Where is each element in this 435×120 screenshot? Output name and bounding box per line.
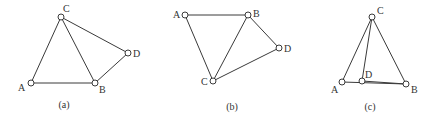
node-label-B: B (411, 84, 418, 95)
figure-c: ABCD(c) (331, 5, 418, 113)
node-C (58, 14, 64, 20)
edge-AC (185, 15, 213, 81)
node-label-D: D (133, 48, 140, 59)
node-label-A: A (173, 9, 181, 20)
node-label-C: C (201, 76, 208, 87)
edge-BC (213, 15, 248, 81)
edge-CD (213, 48, 279, 81)
figure-caption: (a) (58, 99, 69, 111)
node-A (182, 12, 188, 18)
node-B (245, 12, 251, 18)
edge-CB (61, 17, 95, 83)
node-B (92, 80, 98, 86)
edge-CB (372, 17, 406, 84)
node-A (339, 79, 345, 85)
node-label-D: D (365, 69, 372, 80)
node-D (276, 45, 282, 51)
node-label-A: A (18, 82, 26, 93)
edge-AC (31, 17, 61, 83)
node-label-C: C (63, 3, 70, 14)
edge-CD (61, 17, 128, 53)
edge-BD (248, 15, 279, 48)
graph-diagrams: ABCD(a) ABCD(b) ABCD(c) (0, 0, 435, 120)
node-label-C: C (377, 5, 384, 16)
figure-caption: (c) (364, 101, 375, 113)
node-D (125, 50, 131, 56)
node-C (210, 78, 216, 84)
node-label-D: D (284, 43, 291, 54)
figure-a: ABCD(a) (18, 3, 140, 111)
node-label-B: B (99, 84, 106, 95)
edge-BD (95, 53, 128, 83)
node-A (28, 80, 34, 86)
node-C (369, 14, 375, 20)
figure-caption: (b) (226, 101, 238, 113)
node-label-B: B (253, 8, 260, 19)
node-B (403, 81, 409, 87)
figure-b: ABCD(b) (173, 8, 291, 113)
node-label-A: A (331, 84, 339, 95)
